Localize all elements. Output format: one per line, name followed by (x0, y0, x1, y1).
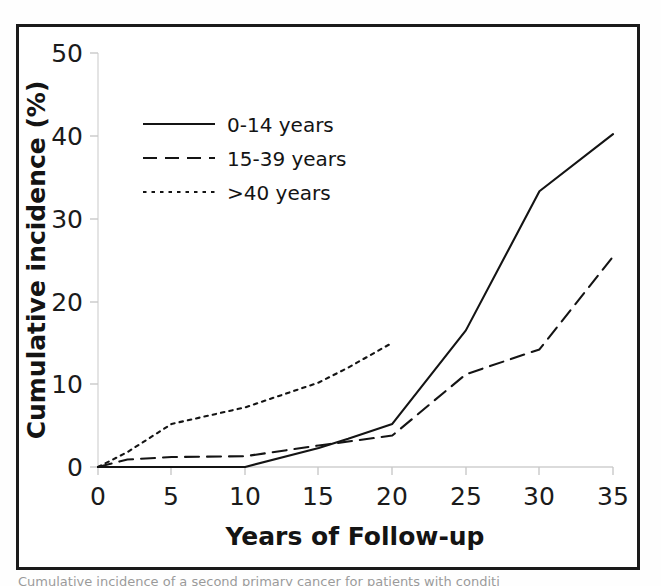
chart-legend: 0-14 years 15-39 years >40 years (143, 113, 347, 205)
x-tick-label-20: 20 (376, 482, 408, 511)
y-axis-ticks (90, 53, 98, 467)
y-tick-label-0: 0 (67, 453, 83, 482)
y-tick-label-20: 20 (51, 288, 83, 317)
x-tick-label-15: 15 (302, 482, 334, 511)
y-axis-title: Cumulative incidence (%) (22, 81, 51, 440)
x-axis-title: Years of Follow-up (224, 522, 484, 551)
y-tick-label-50: 50 (51, 39, 83, 68)
x-tick-label-0: 0 (90, 482, 106, 511)
x-tick-label-30: 30 (523, 482, 555, 511)
legend-label-0-14-years: 0-14 years (227, 113, 334, 137)
legend-entry-15-39-years[interactable]: 15-39 years (143, 147, 347, 171)
figure-caption-sliver: Cumulative incidence of a second primary… (18, 575, 642, 586)
legend-label-15-39-years: 15-39 years (227, 147, 347, 171)
series-line-over-40-years (98, 343, 392, 467)
legend-entry-0-14-years[interactable]: 0-14 years (143, 113, 334, 137)
x-tick-label-35: 35 (597, 482, 629, 511)
y-tick-label-30: 30 (51, 205, 83, 234)
cumulative-incidence-line-chart: 0 10 20 30 40 50 0 5 (19, 27, 637, 567)
figure-frame: 0 10 20 30 40 50 0 5 (16, 24, 640, 570)
x-tick-label-10: 10 (229, 482, 261, 511)
legend-entry-over-40-years[interactable]: >40 years (143, 181, 331, 205)
x-axis-ticks (98, 467, 613, 475)
legend-label-over-40-years: >40 years (227, 181, 331, 205)
y-axis-tick-labels: 0 10 20 30 40 50 (51, 39, 83, 482)
series-group (98, 134, 613, 467)
x-axis-tick-labels: 0 5 10 15 20 25 30 35 (90, 482, 629, 511)
y-tick-label-40: 40 (51, 122, 83, 151)
series-line-0-14-years (98, 134, 613, 467)
x-tick-label-5: 5 (163, 482, 179, 511)
figure-root: 0 10 20 30 40 50 0 5 (0, 0, 661, 586)
x-tick-label-25: 25 (450, 482, 482, 511)
y-tick-label-10: 10 (51, 370, 83, 399)
